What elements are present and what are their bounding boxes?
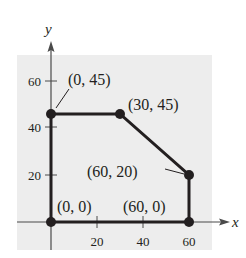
- label-30-45: (30, 45): [128, 96, 179, 114]
- vertex-30-45: [115, 109, 125, 119]
- vertex-60-20: [184, 170, 194, 180]
- x-axis-label: x: [231, 214, 239, 230]
- vertex-0-0: [46, 217, 56, 227]
- vertex-60-0: [184, 217, 194, 227]
- vertex-0-45: [46, 109, 56, 119]
- label-60-20: (60, 20): [87, 163, 138, 181]
- label-0-45: (0, 45): [68, 71, 111, 89]
- y-tick-label-60: 60: [28, 74, 41, 89]
- x-tick-label-20: 20: [91, 234, 104, 249]
- y-tick-label-40: 40: [28, 120, 41, 135]
- y-tick-label-20: 20: [28, 168, 41, 183]
- x-tick-label-60: 60: [183, 234, 196, 249]
- label-60-0: (60, 0): [123, 198, 166, 216]
- label-0-0: (0, 0): [57, 198, 92, 216]
- y-axis-label: y: [43, 21, 52, 37]
- x-tick-label-40: 40: [137, 234, 150, 249]
- feasible-region-plot: x y 20 40 60 20 40 60 (0, 45) (30, 45) (…: [0, 0, 246, 258]
